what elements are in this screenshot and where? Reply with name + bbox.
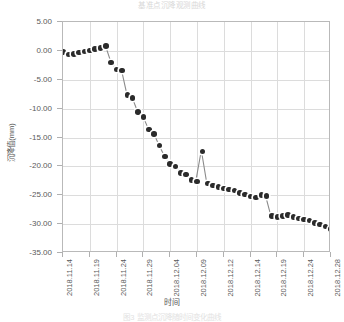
x-tick-label: 2018.11.29 xyxy=(145,259,154,296)
x-tick-mark xyxy=(169,252,170,257)
x-tick-label: 2018.12.19 xyxy=(279,259,288,297)
x-tick-mark xyxy=(250,252,251,257)
x-tick-label: 2018.12.24 xyxy=(306,259,315,297)
x-tick-label: 2018.12.04 xyxy=(172,259,181,297)
x-tick-label: 2018.11.14 xyxy=(65,259,74,296)
series-polyline xyxy=(63,46,329,227)
x-axis-title: 时间 xyxy=(0,296,344,307)
figure-caption: 图3 监测点沉降随时间变化曲线 xyxy=(0,311,344,322)
data-point xyxy=(328,226,330,232)
y-tick-label: 5.00 xyxy=(2,17,52,26)
data-point xyxy=(253,195,259,201)
y-tick-label: -20.00 xyxy=(2,161,52,170)
x-tick-mark xyxy=(276,252,277,257)
x-tick-mark xyxy=(303,252,304,257)
x-tick-label: 2018.12.12 xyxy=(226,259,235,297)
x-tick-label: 2018.11.19 xyxy=(92,259,101,296)
x-tick-label: 2018.12.09 xyxy=(199,259,208,297)
y-tick-label: -35.00 xyxy=(2,248,52,257)
x-tick-mark xyxy=(62,252,63,257)
x-tick-mark xyxy=(89,252,90,257)
y-tick-label: 0.00 xyxy=(2,45,52,54)
data-point xyxy=(103,43,109,49)
data-point xyxy=(162,154,168,160)
x-tick-mark xyxy=(196,252,197,257)
x-tick-mark xyxy=(116,252,117,257)
x-tick-label: 2018.11.24 xyxy=(119,259,128,296)
x-tick-mark xyxy=(223,252,224,257)
x-tick-mark xyxy=(330,252,331,257)
data-point xyxy=(135,109,141,115)
data-point xyxy=(151,131,157,137)
figure-title: 基准点沉降观测曲线 xyxy=(0,0,344,12)
data-point xyxy=(269,213,275,219)
data-point xyxy=(141,114,147,120)
data-point xyxy=(194,179,200,185)
y-tick-label: -30.00 xyxy=(2,219,52,228)
data-point xyxy=(264,193,270,199)
y-tick-label: -10.00 xyxy=(2,103,52,112)
plot-area xyxy=(62,21,330,252)
y-tick-label: -5.00 xyxy=(2,74,52,83)
x-tick-label: 2018.12.28 xyxy=(333,259,342,297)
x-tick-label: 2018.12.14 xyxy=(253,259,262,297)
data-point xyxy=(119,68,125,74)
y-tick-label: -15.00 xyxy=(2,132,52,141)
y-tick-label: -25.00 xyxy=(2,190,52,199)
x-tick-mark xyxy=(142,252,143,257)
